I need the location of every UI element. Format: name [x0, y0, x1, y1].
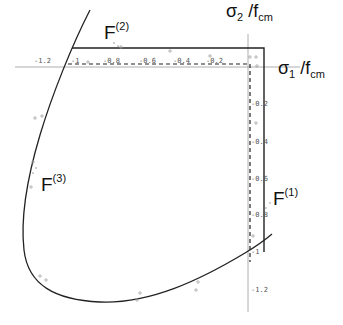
- sigma1-axis-label: σ1 /fcm: [278, 58, 325, 80]
- f2-main: F: [104, 22, 116, 43]
- biaxial-failure-diagram: [0, 0, 343, 325]
- sigma1-fcm-subscript: cm: [310, 68, 325, 80]
- solid-limit-lines: [72, 48, 264, 252]
- y-tick-label: -0.4: [251, 138, 268, 146]
- x-tick-label: -0.4: [173, 57, 190, 65]
- sigma2-divider: /f: [243, 1, 258, 21]
- f1-superscript: (1): [285, 186, 298, 198]
- failure-label-f2: F(2): [104, 20, 129, 44]
- x-tick-label: -0.2: [206, 57, 223, 65]
- y-tick-label: -0.2: [251, 100, 268, 108]
- x-tick-label: -1: [71, 57, 79, 65]
- f1-main: F: [273, 188, 285, 209]
- x-tick-label: -1.2: [34, 57, 51, 65]
- sigma2-symbol: σ: [226, 1, 237, 21]
- x-tick-label: -0.8: [103, 57, 120, 65]
- sigma1-divider: /f: [295, 58, 310, 78]
- x-tick-label: -0.6: [139, 57, 156, 65]
- y-tick-label: -0.8: [251, 211, 268, 219]
- sigma1-symbol: σ: [278, 58, 289, 78]
- sigma2-axis-label: σ2 /fcm: [226, 1, 273, 23]
- y-tick-label: -1.2: [251, 286, 268, 294]
- sigma2-fcm-subscript: cm: [258, 11, 273, 23]
- failure-label-f3: F(3): [41, 172, 66, 196]
- failure-label-f1: F(1): [273, 186, 298, 210]
- f2-superscript: (2): [116, 20, 129, 32]
- dashed-limit-lines: [68, 64, 250, 262]
- y-tick-label: -1: [251, 248, 259, 256]
- y-tick-label: -0.6: [251, 175, 268, 183]
- f3-main: F: [41, 174, 53, 195]
- failure-envelope-curve: [23, 10, 272, 302]
- f3-superscript: (3): [53, 172, 66, 184]
